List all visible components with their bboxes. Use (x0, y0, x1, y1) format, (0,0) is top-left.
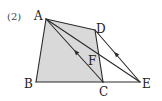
point-label-e: E (142, 77, 151, 91)
point-label-b: B (24, 77, 33, 91)
point-label-c: C (99, 85, 108, 99)
problem-number: (2) (7, 11, 21, 22)
geometry-diagram: (2) A D B C E F (0, 0, 162, 101)
point-label-a: A (33, 9, 43, 23)
point-label-f: F (88, 54, 96, 68)
point-label-d: D (96, 22, 106, 36)
